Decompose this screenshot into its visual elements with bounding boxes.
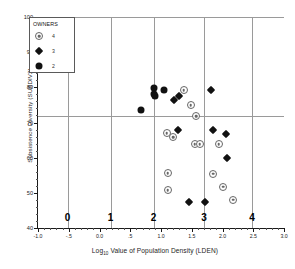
x-axis-minor-tick xyxy=(87,228,88,230)
x-axis-minor-tick xyxy=(278,228,279,230)
x-axis-title-subscript: 10 xyxy=(103,251,108,256)
x-axis-minor-tick xyxy=(210,228,211,230)
x-axis-minor-tick xyxy=(229,228,230,230)
legend-box: OWNERS 432 xyxy=(29,17,75,73)
y-axis-tick xyxy=(34,193,38,194)
legend-entry-3[interactable]: 3 xyxy=(34,45,74,57)
y-axis-tick-label: 70 xyxy=(27,120,33,126)
y-axis-minor-tick xyxy=(36,137,38,138)
x-axis-tick-label: 0.0 xyxy=(96,233,103,239)
x-axis-minor-tick xyxy=(235,228,236,230)
x-axis-minor-tick xyxy=(44,228,45,230)
vertical-gridline-2 xyxy=(154,17,155,228)
y-axis-minor-tick xyxy=(36,221,38,222)
y-axis-minor-tick xyxy=(36,151,38,152)
data-point-target-circle-icon xyxy=(229,196,237,204)
x-axis-tick-label: 1.0 xyxy=(157,233,164,239)
x-axis-tick-label: 1.5 xyxy=(188,233,195,239)
data-point-filled-diamond-icon xyxy=(222,130,230,138)
vertical-gridline-3 xyxy=(204,17,205,228)
x-axis-minor-tick xyxy=(81,228,82,230)
x-axis-minor-tick xyxy=(143,228,144,230)
x-axis-minor-tick xyxy=(56,228,57,230)
x-axis-title-main: Value of Population Density (LDEN) xyxy=(110,247,218,254)
legend-entry-label: 4 xyxy=(52,33,55,39)
x-axis-minor-tick xyxy=(93,228,94,230)
target-circle-icon xyxy=(34,31,44,41)
data-point-target-circle-icon xyxy=(187,101,195,109)
x-axis-tick xyxy=(100,228,101,232)
legend-entry-4[interactable]: 4 xyxy=(34,30,74,42)
x-axis-minor-tick xyxy=(124,228,125,230)
legend-entry-2[interactable]: 2 xyxy=(34,60,74,72)
horizontal-gridline-0 xyxy=(38,116,284,117)
x-axis-minor-tick xyxy=(179,228,180,230)
data-point-filled-circle-icon xyxy=(151,93,158,100)
x-axis-minor-tick xyxy=(216,228,217,230)
data-point-filled-diamond-icon xyxy=(185,198,193,206)
data-point-target-circle-icon xyxy=(164,186,172,194)
x-axis-minor-tick xyxy=(149,228,150,230)
y-axis-minor-tick xyxy=(36,108,38,109)
data-point-filled-circle-icon xyxy=(138,107,145,114)
x-axis-title: Log10 Value of Population Density (LDEN) xyxy=(30,247,280,256)
x-axis-tick-label: 3.0 xyxy=(280,233,287,239)
data-point-filled-circle-icon xyxy=(161,87,168,94)
y-axis-minor-tick xyxy=(36,200,38,201)
x-axis-tick xyxy=(253,228,254,232)
x-axis-minor-tick xyxy=(198,228,199,230)
y-axis-tick-label: 40 xyxy=(27,225,33,231)
data-point-target-circle-icon xyxy=(164,169,172,177)
x-axis-tick-label: -.5 xyxy=(66,233,72,239)
x-axis-tick xyxy=(284,228,285,232)
y-axis-minor-tick xyxy=(36,207,38,208)
y-axis-tick-label: 60 xyxy=(27,155,33,161)
legend-title: OWNERS xyxy=(33,21,58,27)
category-label-3: 3 xyxy=(201,212,207,223)
data-point-target-circle-icon xyxy=(196,140,204,148)
legend-entry-label: 3 xyxy=(52,48,55,54)
x-axis-tick xyxy=(223,228,224,232)
category-label-1: 1 xyxy=(108,212,114,223)
x-axis-tick-label: 2.0 xyxy=(219,233,226,239)
x-axis-minor-tick xyxy=(259,228,260,230)
y-axis-minor-tick xyxy=(36,80,38,81)
data-point-filled-diamond-icon xyxy=(209,126,217,134)
data-point-target-circle-icon xyxy=(219,183,227,191)
x-axis-tick-label: .5 xyxy=(128,233,132,239)
data-point-target-circle-icon xyxy=(215,140,223,148)
x-axis-minor-tick xyxy=(247,228,248,230)
x-axis-minor-tick xyxy=(266,228,267,230)
y-axis-minor-tick xyxy=(36,172,38,173)
x-axis-minor-tick xyxy=(75,228,76,230)
filled-diamond-icon-glyph xyxy=(35,47,43,55)
x-axis-minor-tick xyxy=(204,228,205,230)
x-axis-title-prefix: Log xyxy=(92,247,103,254)
y-axis-tick xyxy=(34,123,38,124)
data-point-filled-diamond-icon xyxy=(201,198,209,206)
target-circle-icon-glyph xyxy=(35,32,43,40)
y-axis-minor-tick xyxy=(36,165,38,166)
vertical-gridline-1 xyxy=(111,17,112,228)
x-axis-minor-tick xyxy=(136,228,137,230)
y-axis-minor-tick xyxy=(36,179,38,180)
y-axis-minor-tick xyxy=(36,73,38,74)
x-axis-minor-tick xyxy=(173,228,174,230)
x-axis-tick-label: -1.0 xyxy=(34,233,43,239)
x-axis-tick xyxy=(38,228,39,232)
y-axis-minor-tick xyxy=(36,130,38,131)
x-axis-minor-tick xyxy=(167,228,168,230)
y-axis-minor-tick xyxy=(36,115,38,116)
data-point-filled-diamond-icon xyxy=(207,86,215,94)
y-axis-minor-tick xyxy=(36,144,38,145)
data-point-filled-diamond-icon xyxy=(223,154,231,162)
category-label-2: 2 xyxy=(151,212,157,223)
category-label-4: 4 xyxy=(249,212,255,223)
filled-circle-icon xyxy=(34,61,44,71)
filled-circle-icon-glyph xyxy=(36,63,43,70)
y-axis-tick-label: 50 xyxy=(27,190,33,196)
y-axis-minor-tick xyxy=(36,101,38,102)
filled-diamond-icon xyxy=(34,46,44,56)
scatter-plot-figure: Subsistence Diversity (SUBDIV2) Log10 Va… xyxy=(0,0,295,269)
x-axis-tick xyxy=(161,228,162,232)
